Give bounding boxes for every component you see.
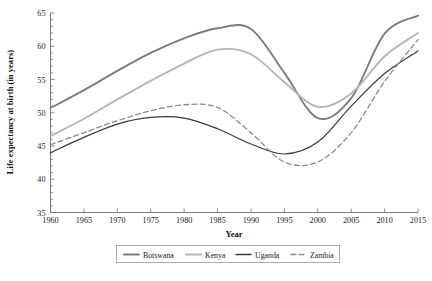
series-line-zambia (51, 40, 419, 166)
legend: BotswanaKenyaUgandaZambia (117, 246, 340, 263)
legend-label-kenya: Kenya (205, 251, 226, 260)
x-tick-label: 1965 (76, 216, 92, 225)
x-tick-label: 1970 (109, 216, 125, 225)
x-tick-label: 1985 (209, 216, 225, 225)
y-tick-label: 60 (37, 42, 45, 51)
series-line-botswana (51, 16, 419, 119)
series-group (51, 16, 419, 166)
y-tick-label: 50 (37, 109, 45, 118)
y-tick-label: 55 (37, 76, 45, 85)
x-tick-label: 2015 (410, 216, 426, 225)
x-tick-label: 1975 (143, 216, 159, 225)
x-tick-label: 2000 (310, 216, 326, 225)
y-tick-label: 40 (37, 175, 45, 184)
x-tick-label: 2005 (343, 216, 359, 225)
legend-label-zambia: Zambia (310, 251, 334, 260)
legend-label-uganda: Uganda (255, 251, 280, 260)
series-line-uganda (51, 51, 419, 154)
x-axis-title: Year (225, 229, 242, 239)
series-line-kenya (51, 33, 419, 136)
y-axis-title: Life expectancy at birth (in years) (5, 50, 15, 174)
x-tick-label: 1980 (176, 216, 192, 225)
line-chart: 35404550556065 1960196519701975198019851… (0, 0, 432, 281)
plot-area: 35404550556065 1960196519701975198019851… (37, 9, 426, 225)
legend-label-botswana: Botswana (143, 251, 174, 260)
y-tick-group: 35404550556065 (37, 9, 54, 218)
x-tick-label: 1960 (42, 216, 58, 225)
x-tick-label: 2010 (376, 216, 392, 225)
y-tick-label: 65 (37, 9, 45, 18)
x-tick-group: 1960196519701975198019851990199520002005… (42, 209, 426, 226)
x-tick-label: 1990 (243, 216, 259, 225)
x-tick-label: 1995 (276, 216, 292, 225)
y-tick-label: 45 (37, 142, 45, 151)
